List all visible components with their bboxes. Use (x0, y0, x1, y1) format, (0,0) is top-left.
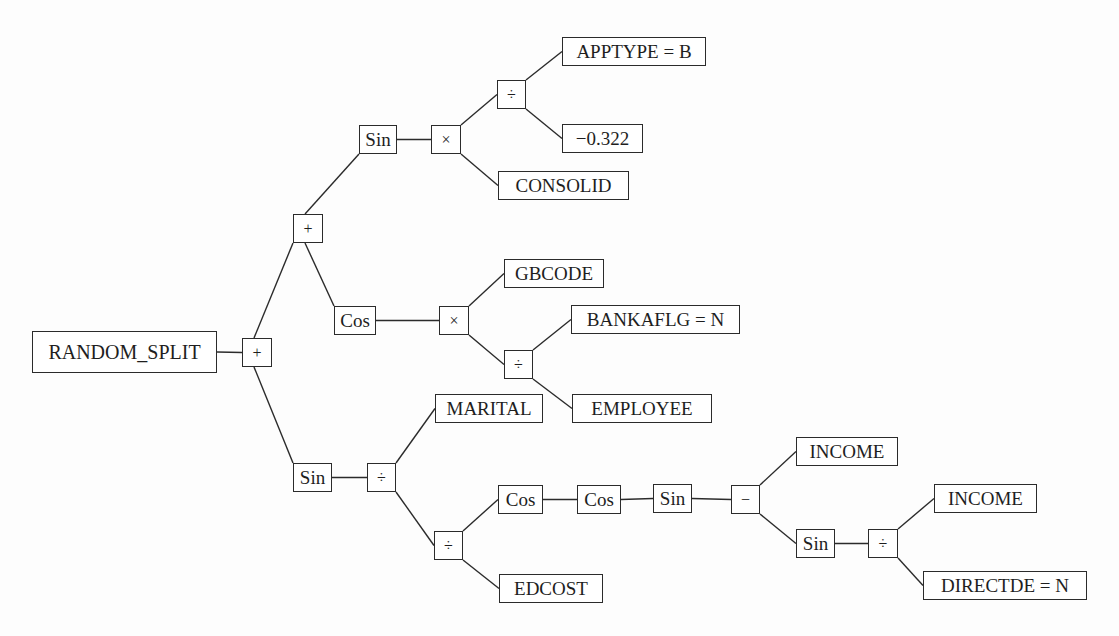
node-cos-b: Cos (577, 485, 621, 514)
edge-minus-to-sin_d (760, 514, 796, 544)
node-edcost: EDCOST (499, 574, 603, 603)
edge-times_upper-to-div_upper (461, 95, 497, 126)
node-sin-upper: Sin (359, 125, 397, 154)
edge-root_split-to-plus_root (217, 352, 242, 353)
node-bankaflg: BANKAFLG = N (571, 305, 740, 334)
edge-div_upper-to-const_neg (526, 109, 562, 139)
node-times-mid: × (439, 306, 469, 335)
tree-edges (0, 0, 1119, 636)
edge-times_mid-to-gbcode (469, 274, 504, 307)
node-random-split: RANDOM_SPLIT (32, 331, 217, 373)
node-sin-d: Sin (796, 529, 835, 558)
node-cos-mid: Cos (334, 306, 376, 335)
edge-plus_root-to-plus_upper (254, 243, 293, 338)
node-income-2: INCOME (934, 484, 1037, 513)
node-plus-root: + (242, 338, 272, 367)
edge-minus-to-income1 (760, 452, 796, 486)
node-sin-c: Sin (653, 484, 692, 513)
node-employee: EMPLOYEE (572, 394, 712, 423)
edge-div_lower-to-div_lower2 (396, 492, 434, 546)
node-divide-mid: ÷ (504, 350, 533, 379)
node-consolid: CONSOLID (498, 171, 629, 200)
edge-div_d-to-income2 (898, 499, 934, 530)
edge-times_upper-to-consolid (461, 154, 498, 186)
node-gbcode: GBCODE (504, 259, 604, 288)
edge-cos_b-to-sin_c (621, 499, 653, 500)
node-directde: DIRECTDE = N (923, 571, 1087, 600)
node-plus-upper: + (293, 214, 323, 243)
node-divide-lower: ÷ (367, 463, 396, 492)
node-marital: MARITAL (435, 394, 543, 423)
edge-div_upper-to-apptype (526, 52, 562, 81)
edge-div_lower-to-marital (396, 409, 435, 464)
expression-tree-diagram: RANDOM_SPLIT + + Sin × ÷ APPTYPE = B −0.… (0, 0, 1119, 636)
edge-sin_c-to-minus (692, 499, 731, 500)
edge-div_mid-to-bankaflg (533, 320, 571, 351)
edge-plus_upper-to-sin_upper (305, 154, 359, 214)
edge-plus_upper-to-cos_mid (305, 243, 334, 306)
edge-div_lower2-to-cos_a (463, 500, 498, 532)
node-times-upper: × (431, 125, 461, 154)
edge-div_d-to-directde (898, 558, 923, 586)
node-constant: −0.322 (562, 124, 643, 153)
node-income-1: INCOME (796, 437, 898, 466)
node-minus: − (731, 485, 760, 514)
edge-plus_root-to-sin_lower (254, 367, 293, 463)
node-cos-a: Cos (498, 485, 543, 514)
node-apptype: APPTYPE = B (562, 37, 706, 66)
node-divide-upper: ÷ (497, 80, 526, 109)
edge-div_lower2-to-edcost (463, 560, 499, 589)
node-divide-d: ÷ (868, 529, 898, 558)
node-divide-lower-2: ÷ (434, 531, 463, 560)
edge-times_mid-to-div_mid (469, 335, 504, 365)
node-sin-lower: Sin (293, 463, 332, 492)
